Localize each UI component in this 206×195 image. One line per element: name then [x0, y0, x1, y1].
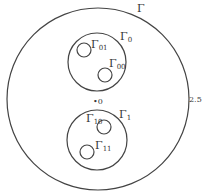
label-gamma-0: Γ0: [120, 30, 132, 44]
label-gamma-10: Γ10: [86, 112, 103, 126]
circle-gamma-11: [80, 145, 94, 159]
circle-gamma-01: [77, 43, 91, 57]
diagram-canvas: Γ 2.5 •0 Γ0 Γ01 Γ00 Γ1 Γ10 Γ11: [0, 0, 206, 195]
label-radius: 2.5: [189, 95, 202, 104]
label-gamma-1: Γ1: [119, 108, 131, 122]
nested-circles-diagram: Γ 2.5 •0 Γ0 Γ01 Γ00 Γ1 Γ10 Γ11: [0, 0, 206, 195]
label-gamma-11: Γ11: [95, 139, 112, 153]
label-gamma-00: Γ00: [109, 57, 126, 71]
circle-gamma-00: [98, 68, 112, 82]
label-gamma: Γ: [137, 2, 145, 15]
label-gamma-01: Γ01: [91, 38, 108, 52]
label-origin: •0: [93, 97, 103, 106]
